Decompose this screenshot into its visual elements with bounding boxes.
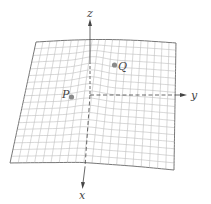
surface-mesh: [11, 40, 176, 170]
z-axis-label: z: [86, 7, 93, 20]
x-axis-label: x: [79, 189, 86, 202]
surface-outline: [10, 40, 176, 171]
y-axis-label: y: [190, 89, 198, 102]
surface-diagram: z y x P Q: [0, 0, 211, 204]
point-q-label: Q: [118, 60, 127, 73]
point-p-marker: [69, 94, 74, 99]
point-p-label: P: [61, 88, 70, 101]
x-arrow-icon: [81, 182, 85, 189]
y-arrow-icon: [180, 93, 187, 97]
z-arrow-icon: [88, 19, 92, 26]
point-q-marker: [112, 62, 117, 67]
